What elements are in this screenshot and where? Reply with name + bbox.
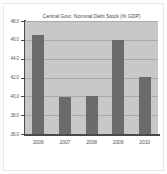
- gridline: [25, 21, 158, 22]
- y-tick-label: 46.0: [0, 37, 19, 42]
- y-tick-label: 44.0: [0, 56, 19, 61]
- bar: [86, 96, 98, 134]
- bar: [59, 97, 71, 134]
- plot-area: [25, 21, 158, 134]
- chart-figure: Central Govt. Nominal Debt Stock (% GDP)…: [0, 0, 167, 174]
- x-axis-line: [24, 134, 160, 136]
- bar: [32, 35, 44, 134]
- y-tick-label: 42.0: [0, 75, 19, 80]
- x-tick-label: 2008: [79, 139, 105, 145]
- gridline: [25, 59, 158, 60]
- y-tick-label: 40.0: [0, 94, 19, 99]
- y-tick-label: 48.0: [0, 19, 19, 24]
- bar: [139, 77, 151, 134]
- y-tick-mark: [21, 134, 25, 135]
- y-tick-label: 36.0: [0, 132, 19, 137]
- x-tick-label: 2009: [105, 139, 131, 145]
- chart-title: Central Govt. Nominal Debt Stock (% GDP): [25, 13, 158, 19]
- bar: [112, 40, 124, 134]
- gridline: [25, 40, 158, 41]
- x-tick-label: 2010: [132, 139, 158, 145]
- y-tick-label: 38.0: [0, 113, 19, 118]
- x-tick-label: 2006: [25, 139, 51, 145]
- x-tick-label: 2007: [52, 139, 78, 145]
